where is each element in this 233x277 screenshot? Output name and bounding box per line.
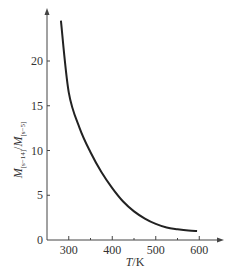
- x-tick-label: 500: [147, 243, 165, 257]
- data-curve: [61, 21, 197, 231]
- x-tick-label: 400: [103, 243, 121, 257]
- x-axis-label: T/K: [126, 255, 145, 269]
- y-axis-arrow-icon: [45, 8, 50, 15]
- y-tick-label: 10: [31, 144, 43, 158]
- y-tick-label: 0: [37, 233, 43, 247]
- x-tick-label: 300: [60, 243, 78, 257]
- x-tick-label: 600: [190, 243, 208, 257]
- x-axis-arrow-icon: [217, 238, 224, 243]
- y-tick-label: 5: [37, 188, 43, 202]
- y-tick-label: 20: [31, 54, 43, 68]
- y-axis: [45, 8, 50, 240]
- x-ticks: 300400500600: [60, 236, 209, 257]
- y-tick-label: 15: [31, 99, 43, 113]
- y-axis-label: M[s−14]/M[s−5]: [11, 122, 27, 180]
- x-axis: [47, 238, 224, 243]
- chart: 05101520 300400500600 T/K M[s−14]/M[s−5]: [0, 0, 233, 277]
